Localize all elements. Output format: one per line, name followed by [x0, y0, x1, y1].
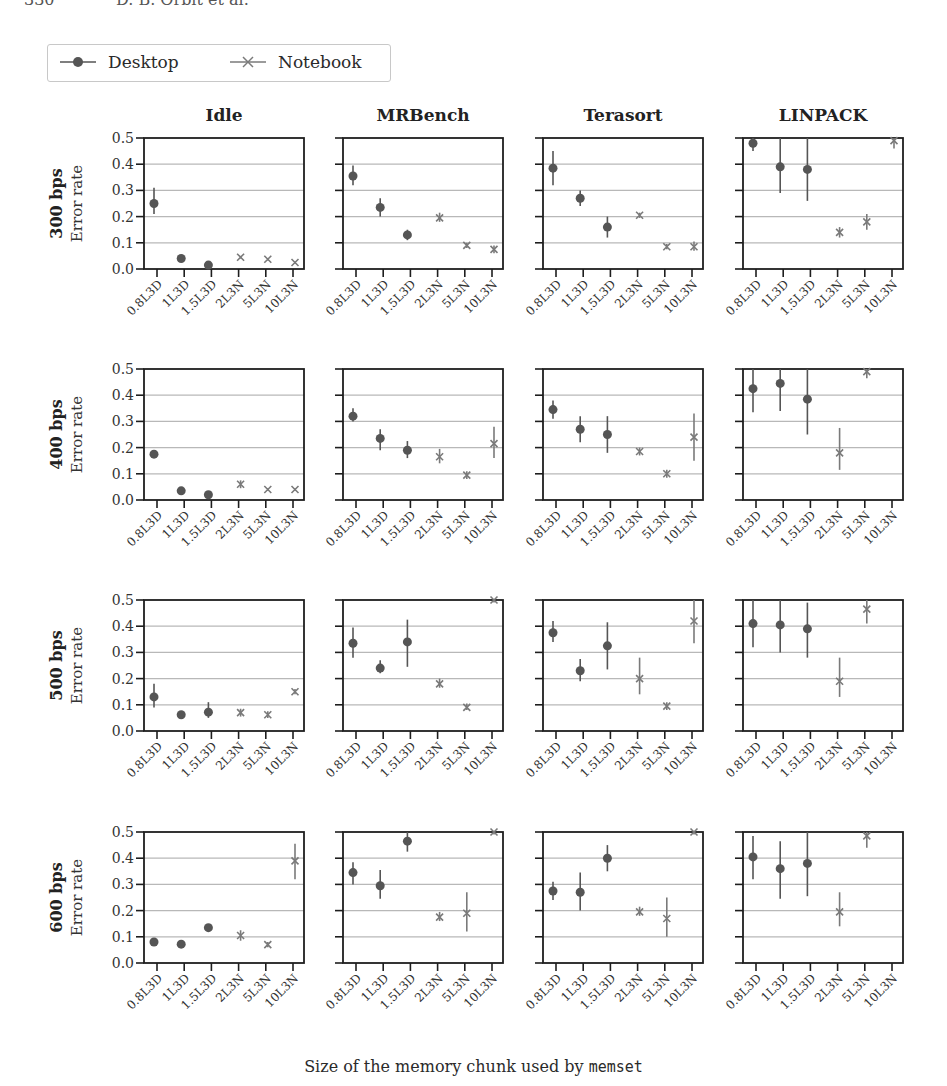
desktop-point: [776, 379, 785, 388]
desktop-point: [376, 664, 385, 673]
desktop-point: [403, 837, 412, 846]
desktop-point: [177, 710, 186, 719]
x-marker-icon: [228, 52, 268, 72]
desktop-point: [150, 199, 159, 208]
desktop-point: [803, 624, 812, 633]
y-tick-label: 0.4: [112, 156, 134, 172]
x-tick-label: 0.8L3D: [323, 508, 364, 549]
x-tick-label: 2L3N: [612, 971, 646, 1005]
x-tick-label: 0.8L3D: [124, 508, 165, 549]
desktop-point: [403, 446, 412, 455]
plot-frame: [343, 600, 503, 731]
desktop-point: [576, 194, 585, 203]
x-tick-label: 2L3N: [612, 277, 646, 311]
desktop-point: [803, 165, 812, 174]
plot-frame: [543, 832, 703, 963]
x-tick-label: 0.8L3D: [124, 739, 165, 780]
desktop-point: [177, 486, 186, 495]
x-tick-label: 2L3N: [412, 508, 446, 542]
panel-linpack-500-bps: 0.8L3D1L3D1.5L3D2L3N5L3N10L3N: [723, 600, 903, 780]
legend-item-desktop: Desktop: [58, 52, 179, 72]
y-tick-label: 0.5: [112, 824, 134, 840]
x-tick-label: 2L3N: [812, 739, 846, 773]
y-tick-label: 0.2: [112, 671, 134, 687]
y-tick-label: 0.1: [112, 697, 134, 713]
x-tick-label: 0.8L3D: [523, 508, 564, 549]
y-axis-label: Error rate: [68, 627, 86, 704]
desktop-point: [204, 490, 213, 499]
y-tick-label: 0.0: [112, 261, 134, 277]
plot-frame: [343, 369, 503, 500]
plot-frame: [543, 138, 703, 269]
x-tick-label: 2L3N: [612, 739, 646, 773]
x-tick-label: 2L3N: [812, 971, 846, 1005]
column-title: LINPACK: [779, 105, 869, 125]
x-axis-label-text: Size of the memory chunk used by: [304, 1057, 583, 1076]
desktop-point: [177, 254, 186, 263]
y-tick-label: 0.3: [112, 644, 134, 660]
y-tick-label: 0.5: [112, 361, 134, 377]
desktop-point: [150, 938, 159, 947]
notebook-point: [264, 486, 271, 493]
x-axis-label-code: memset: [589, 1058, 643, 1076]
row-label: 600 bps: [47, 862, 66, 932]
desktop-point: [803, 859, 812, 868]
x-tick-label: 2L3N: [213, 739, 247, 773]
panel-mrbench-600-bps: 0.8L3D1L3D1.5L3D2L3N5L3N10L3N: [323, 829, 503, 1013]
column-title: MRBench: [376, 105, 469, 125]
y-tick-label: 0.1: [112, 466, 134, 482]
plot-frame: [144, 138, 304, 269]
row-label: 300 bps: [47, 168, 66, 238]
desktop-point: [204, 261, 213, 270]
plot-frame: [144, 832, 304, 963]
y-axis-label: Error rate: [68, 165, 86, 242]
plot-frame: [144, 369, 304, 500]
desktop-point: [150, 692, 159, 701]
circle-marker-icon: [58, 52, 98, 72]
desktop-point: [603, 641, 612, 650]
y-tick-label: 0.1: [112, 929, 134, 945]
x-tick-label: 2L3N: [612, 508, 646, 542]
desktop-point: [349, 171, 358, 180]
desktop-point: [603, 430, 612, 439]
y-tick-label: 0.2: [112, 903, 134, 919]
y-tick-label: 0.5: [112, 130, 134, 146]
y-tick-label: 0.0: [112, 723, 134, 739]
desktop-point: [603, 854, 612, 863]
x-tick-label: 0.8L3D: [124, 971, 165, 1012]
panel-idle-500-bps: 0.8L3D1L3D1.5L3D2L3N5L3N10L3N: [124, 600, 304, 780]
panel-idle-300-bps: 0.8L3D1L3D1.5L3D2L3N5L3N10L3N: [124, 138, 304, 318]
desktop-point: [749, 139, 758, 148]
notebook-point: [237, 254, 244, 261]
x-axis-label: Size of the memory chunk used by memset: [0, 1057, 947, 1076]
row-label: 500 bps: [47, 630, 66, 700]
y-tick-label: 0.0: [112, 492, 134, 508]
x-tick-label: 0.8L3D: [323, 739, 364, 780]
legend-label: Notebook: [278, 52, 362, 72]
desktop-point: [177, 940, 186, 949]
y-tick-label: 0.0: [112, 955, 134, 971]
x-tick-label: 2L3N: [812, 508, 846, 542]
panel-terasort-400-bps: 0.8L3D1L3D1.5L3D2L3N5L3N10L3N: [523, 369, 703, 549]
legend-item-notebook: Notebook: [228, 52, 362, 72]
x-tick-label: 0.8L3D: [523, 971, 564, 1012]
y-tick-label: 0.5: [112, 592, 134, 608]
desktop-point: [776, 620, 785, 629]
x-tick-label: 0.8L3D: [723, 508, 764, 549]
y-tick-label: 0.4: [112, 850, 134, 866]
desktop-point: [204, 708, 213, 717]
panel-terasort-600-bps: 0.8L3D1L3D1.5L3D2L3N5L3N10L3N: [523, 829, 703, 1013]
y-tick-label: 0.1: [112, 235, 134, 251]
panel-linpack-300-bps: 0.8L3D1L3D1.5L3D2L3N5L3N10L3N: [723, 137, 903, 318]
x-tick-label: 0.8L3D: [323, 277, 364, 318]
y-tick-label: 0.2: [112, 209, 134, 225]
plot-frame: [543, 369, 703, 500]
figure-grid: IdleMRBenchTerasortLINPACK300 bpsError r…: [0, 0, 947, 1086]
panel-linpack-400-bps: 0.8L3D1L3D1.5L3D2L3N5L3N10L3N: [723, 368, 903, 549]
plot-frame: [343, 138, 503, 269]
panel-linpack-600-bps: 0.8L3D1L3D1.5L3D2L3N5L3N10L3N: [723, 832, 903, 1012]
y-tick-label: 0.4: [112, 618, 134, 634]
desktop-point: [776, 864, 785, 873]
notebook-point: [264, 256, 271, 263]
desktop-point: [403, 637, 412, 646]
